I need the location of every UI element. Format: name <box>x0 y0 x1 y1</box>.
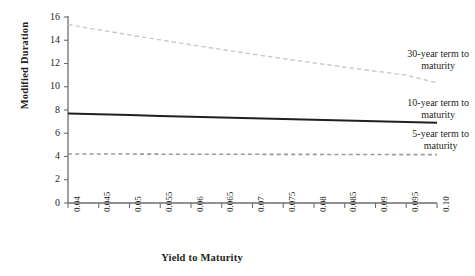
series-line-1 <box>68 25 437 83</box>
series-line-2 <box>68 113 437 122</box>
axes <box>64 16 437 208</box>
data-series <box>68 25 437 155</box>
plot-area <box>0 0 475 276</box>
series-line-3 <box>68 154 437 155</box>
chart-figure: Modified Duration Yield to Maturity 0246… <box>0 0 475 276</box>
